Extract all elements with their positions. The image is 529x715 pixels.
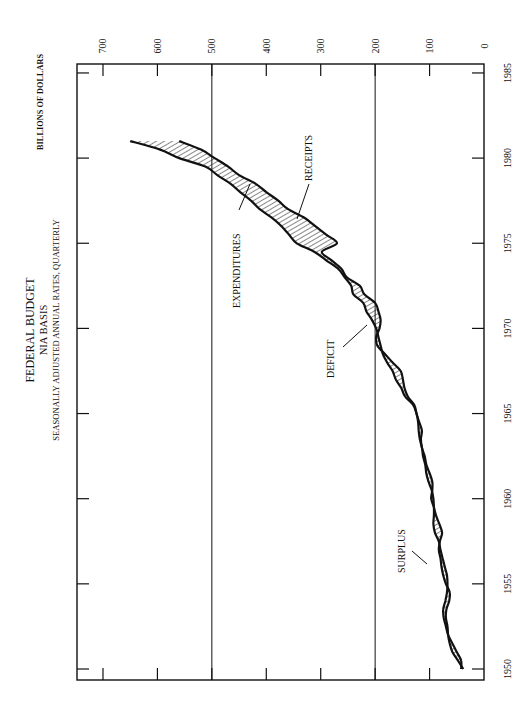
surplus-label: SURPLUS bbox=[396, 529, 407, 573]
title-line-1: FEDERAL BUDGET bbox=[23, 200, 37, 460]
plot-frame bbox=[77, 64, 484, 680]
year-tick-1975: 1975 bbox=[502, 233, 513, 253]
deficit-label: DEFICIT bbox=[325, 340, 336, 378]
value-tick-300: 300 bbox=[315, 39, 326, 54]
expenditures-label: EXPENDITURES bbox=[231, 234, 242, 308]
deficit-leader bbox=[343, 325, 367, 347]
year-tick-1965: 1965 bbox=[502, 404, 513, 424]
receipts-label: RECEIPTS bbox=[303, 135, 314, 181]
gridlines bbox=[212, 64, 375, 680]
year-tick-1970: 1970 bbox=[502, 318, 513, 338]
value-axis-label: BILLIONS OF DOLLARS bbox=[36, 54, 45, 150]
receipts-line bbox=[179, 141, 463, 669]
year-tick-1985: 1985 bbox=[502, 63, 513, 83]
value-tick-0: 0 bbox=[479, 44, 490, 49]
value-tick-400: 400 bbox=[261, 39, 272, 54]
value-tick-600: 600 bbox=[152, 39, 163, 54]
year-tick-1960: 1960 bbox=[502, 489, 513, 509]
surplus-leader bbox=[412, 551, 427, 564]
value-tick-500: 500 bbox=[206, 39, 217, 54]
chart-title: FEDERAL BUDGET NIA BASIS SEASONALLY ADJU… bbox=[23, 200, 62, 460]
value-tick-200: 200 bbox=[370, 39, 381, 54]
federal-budget-chart: 0100200300400500600700195019551960196519… bbox=[0, 0, 529, 715]
title-line-3: SEASONALLY ADJUSTED ANNUAL RATES, QUARTE… bbox=[51, 200, 62, 460]
value-tick-100: 100 bbox=[424, 39, 435, 54]
receipts-leader bbox=[297, 184, 309, 219]
year-tick-1980: 1980 bbox=[502, 148, 513, 168]
year-tick-1950: 1950 bbox=[502, 659, 513, 679]
value-tick-700: 700 bbox=[97, 39, 108, 54]
year-tick-1955: 1955 bbox=[502, 574, 513, 594]
title-line-2: NIA BASIS bbox=[37, 200, 50, 460]
